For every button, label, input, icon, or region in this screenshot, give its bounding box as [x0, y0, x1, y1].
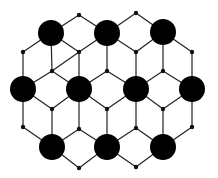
small-node — [190, 50, 194, 54]
large-node — [94, 134, 120, 160]
small-node — [134, 165, 138, 169]
small-node — [50, 107, 54, 111]
large-node — [38, 20, 64, 46]
large-node — [123, 76, 149, 102]
small-node — [161, 107, 165, 111]
large-node — [39, 134, 65, 160]
large-node — [66, 76, 92, 102]
small-node — [21, 125, 25, 129]
large-node — [10, 76, 36, 102]
small-node — [77, 13, 81, 17]
small-node — [134, 126, 138, 130]
large-node — [179, 76, 205, 102]
small-node — [77, 127, 81, 131]
small-node — [134, 50, 138, 54]
hexagonal-lattice-diagram — [0, 0, 218, 178]
small-node — [161, 69, 165, 73]
large-node — [150, 19, 176, 45]
small-node — [77, 166, 81, 170]
small-node — [105, 107, 109, 111]
small-node — [50, 69, 54, 73]
small-node — [190, 125, 194, 129]
large-node — [94, 20, 120, 46]
small-node — [105, 69, 109, 73]
lattice-edge — [52, 52, 79, 71]
large-node — [150, 134, 176, 160]
small-node — [21, 50, 25, 54]
small-node — [134, 11, 138, 15]
small-node — [77, 50, 81, 54]
